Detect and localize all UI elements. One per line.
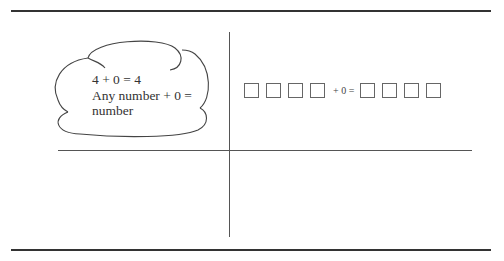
answer-box[interactable] — [360, 83, 375, 98]
answer-box[interactable] — [266, 83, 281, 98]
operator-text: + 0 = — [333, 85, 354, 96]
cloud-line-2: Any number + 0 = — [92, 88, 192, 104]
cloud-text: 4 + 0 = 4 Any number + 0 = number — [92, 72, 192, 119]
answer-box[interactable] — [244, 83, 259, 98]
top-rule — [11, 10, 491, 12]
answer-box[interactable] — [310, 83, 325, 98]
horizontal-divider — [58, 150, 472, 151]
answer-box[interactable] — [426, 83, 441, 98]
answer-box[interactable] — [382, 83, 397, 98]
answer-box[interactable] — [404, 83, 419, 98]
vertical-divider — [229, 32, 230, 237]
answer-box[interactable] — [288, 83, 303, 98]
cloud-line-3: number — [92, 103, 192, 119]
cloud-line-1: 4 + 0 = 4 — [92, 72, 192, 88]
equation-row: + 0 = — [244, 80, 448, 100]
bottom-rule — [11, 249, 491, 251]
